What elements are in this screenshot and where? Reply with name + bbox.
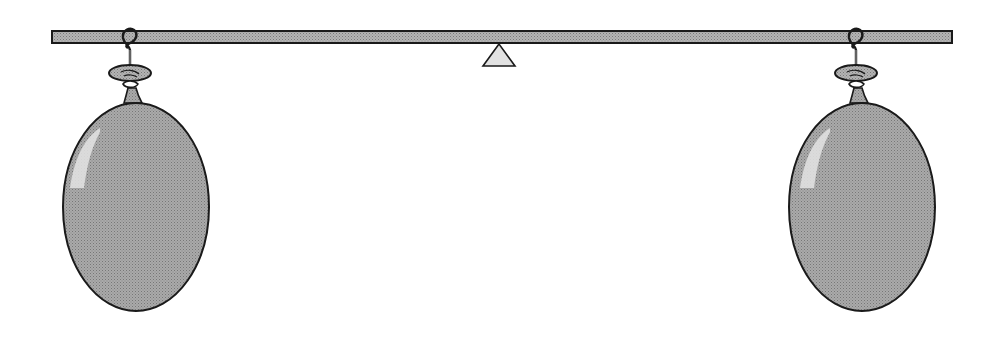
left-neck [124, 88, 142, 103]
left-knot-ring [109, 65, 151, 81]
right-knot-ring [835, 65, 877, 81]
fulcrum-triangle [483, 44, 515, 66]
right-neck [850, 88, 868, 103]
balance-scene [0, 0, 999, 338]
right-balloon-body [789, 103, 935, 311]
left-balloon [63, 29, 209, 311]
right-balloon [789, 29, 935, 311]
beam [52, 31, 952, 43]
left-balloon-body [63, 103, 209, 311]
